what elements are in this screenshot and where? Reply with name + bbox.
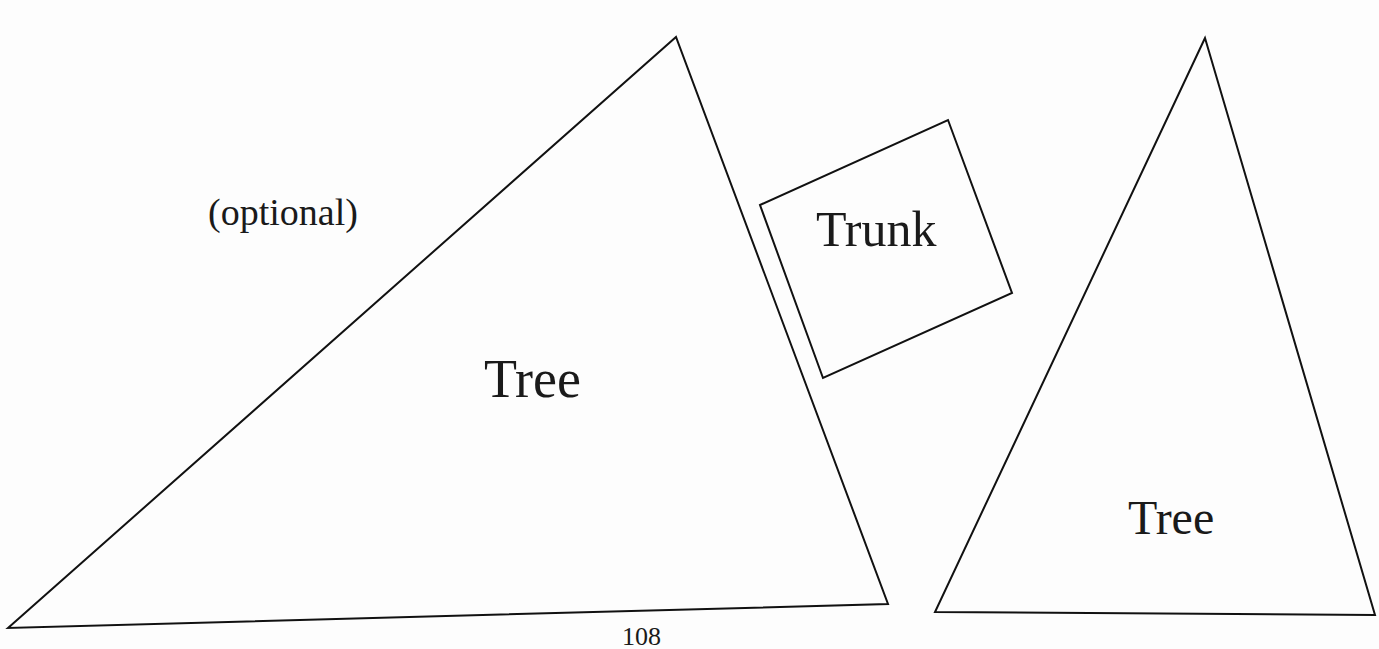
trunk-label: Trunk [816, 200, 936, 258]
page-number: 108 [622, 622, 661, 649]
left-tree-triangle [8, 37, 888, 628]
right-tree-label: Tree [1128, 490, 1214, 545]
optional-note: (optional) [208, 190, 358, 234]
left-tree-label: Tree [484, 348, 581, 410]
